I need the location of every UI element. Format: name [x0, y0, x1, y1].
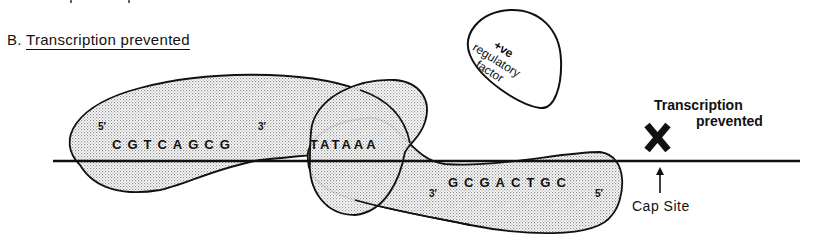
cap-site-label: Cap Site — [632, 198, 690, 214]
cutoff-text-fragments — [70, 0, 130, 3]
tata-box-sequence: TATAAA — [310, 137, 379, 152]
upper-five-prime: 5′ — [98, 121, 106, 132]
panel-label: B. — [7, 31, 22, 48]
lower-sequence: GCGACTGC — [448, 175, 572, 190]
lower-three-prime: 3′ — [429, 188, 437, 199]
upper-sequence: CGTCAGCG — [112, 137, 236, 152]
outcome-line-1: Transcription — [654, 97, 743, 114]
diagram-stage: B. Transcription prevented +ve regulator… — [0, 0, 815, 248]
x-mark-icon — [647, 125, 668, 150]
upper-three-prime: 3′ — [258, 121, 266, 132]
outcome-line-2: prevented — [696, 113, 763, 130]
up-arrow-icon — [656, 167, 664, 193]
panel-title: Transcription prevented — [26, 31, 190, 48]
lower-five-prime: 5′ — [595, 188, 603, 199]
panel-heading: B. Transcription prevented — [7, 31, 190, 48]
